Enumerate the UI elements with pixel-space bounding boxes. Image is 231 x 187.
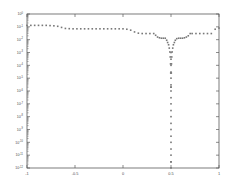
data-point bbox=[187, 35, 189, 37]
data-point bbox=[38, 25, 40, 27]
data-point bbox=[138, 32, 140, 34]
data-point bbox=[175, 39, 177, 41]
data-point-spike bbox=[170, 77, 172, 79]
data-point-spike bbox=[170, 129, 172, 131]
data-point bbox=[65, 28, 67, 30]
y-tick-label-10: 10-10 bbox=[15, 139, 23, 145]
data-point bbox=[171, 56, 173, 58]
scatter-plot: 10010-110-210-310-410-510-610-710-810-91… bbox=[0, 0, 231, 187]
data-point bbox=[107, 28, 109, 30]
y-tick-label-7: 10-7 bbox=[17, 101, 24, 107]
data-point-spike bbox=[170, 58, 172, 60]
data-point-spike bbox=[170, 97, 172, 99]
data-point bbox=[161, 37, 163, 39]
data-point bbox=[88, 28, 90, 30]
data-point-spike bbox=[170, 142, 172, 144]
y-axis-ticks bbox=[27, 14, 219, 168]
figure-container: 10010-110-210-310-410-510-610-710-810-91… bbox=[0, 0, 231, 187]
data-point-spike bbox=[170, 116, 172, 118]
x-tick-label-4: 1 bbox=[218, 171, 220, 176]
data-point-spike bbox=[170, 123, 172, 125]
y-tick-label-1: 10-1 bbox=[17, 24, 24, 30]
data-point bbox=[72, 28, 74, 30]
data-point bbox=[91, 28, 93, 30]
data-point bbox=[49, 25, 51, 27]
y-tick-label-6: 10-6 bbox=[17, 88, 24, 94]
data-point bbox=[180, 37, 182, 39]
data-point-spike bbox=[170, 167, 172, 169]
data-point-spike bbox=[170, 71, 172, 73]
data-point bbox=[145, 33, 147, 35]
data-point bbox=[214, 28, 216, 30]
data-point bbox=[76, 28, 78, 30]
data-point bbox=[84, 28, 86, 30]
y-tick-label-9: 10-9 bbox=[17, 126, 24, 132]
data-point bbox=[186, 36, 188, 38]
data-point bbox=[157, 36, 159, 38]
data-point bbox=[61, 27, 63, 29]
data-point bbox=[34, 25, 36, 27]
data-point-spike bbox=[170, 154, 172, 156]
data-point-spike bbox=[170, 148, 172, 150]
data-point bbox=[95, 28, 97, 30]
data-point bbox=[182, 37, 184, 39]
data-point bbox=[149, 33, 151, 35]
y-tick-label-0: 100 bbox=[18, 11, 24, 17]
data-point-series bbox=[26, 25, 220, 169]
x-axis-tick-labels: -1-0.500.51 bbox=[25, 171, 220, 176]
data-point bbox=[42, 25, 44, 27]
data-point bbox=[45, 25, 47, 27]
data-point bbox=[30, 25, 32, 27]
data-point-spike bbox=[170, 84, 172, 86]
data-point bbox=[130, 29, 132, 31]
data-point bbox=[159, 37, 161, 39]
plot-frame bbox=[27, 14, 219, 168]
y-tick-label-12: 10-12 bbox=[15, 165, 23, 171]
data-point bbox=[174, 42, 176, 44]
data-point-spike bbox=[170, 52, 172, 54]
data-point bbox=[203, 33, 205, 35]
y-tick-label-5: 10-5 bbox=[17, 75, 24, 81]
data-point-spike bbox=[170, 90, 172, 92]
data-point bbox=[168, 44, 170, 46]
data-point bbox=[178, 37, 180, 39]
data-point bbox=[126, 28, 128, 30]
y-tick-label-11: 10-11 bbox=[15, 152, 23, 158]
data-point bbox=[118, 28, 120, 30]
data-point bbox=[171, 63, 173, 65]
data-point bbox=[153, 33, 155, 35]
data-point bbox=[80, 28, 82, 30]
data-point bbox=[155, 34, 157, 36]
data-point bbox=[26, 25, 28, 27]
data-point bbox=[195, 33, 197, 35]
data-point bbox=[57, 26, 59, 28]
data-point bbox=[168, 47, 170, 49]
data-point bbox=[115, 28, 117, 30]
data-point bbox=[68, 28, 70, 30]
data-point bbox=[218, 27, 220, 29]
data-point bbox=[170, 86, 172, 88]
data-point bbox=[211, 33, 213, 35]
y-tick-label-2: 10-2 bbox=[17, 36, 24, 42]
data-point-spike bbox=[170, 135, 172, 137]
data-point-spike bbox=[170, 103, 172, 105]
x-tick-label-1: -0.5 bbox=[72, 171, 79, 176]
data-point-spike bbox=[170, 161, 172, 163]
data-point bbox=[173, 44, 175, 46]
axes-frame bbox=[27, 14, 219, 168]
data-point bbox=[199, 33, 201, 35]
data-point bbox=[176, 38, 178, 40]
data-point bbox=[134, 31, 136, 33]
y-tick-label-3: 10-3 bbox=[17, 49, 24, 55]
data-point-spike bbox=[170, 110, 172, 112]
data-point bbox=[167, 42, 169, 44]
data-point bbox=[169, 56, 171, 58]
data-point bbox=[184, 37, 186, 39]
data-point bbox=[141, 33, 143, 35]
data-point bbox=[111, 28, 113, 30]
x-tick-label-2: 0 bbox=[122, 171, 125, 176]
y-axis-tick-labels: 10010-110-210-310-410-510-610-710-810-91… bbox=[15, 11, 23, 171]
data-point-spike bbox=[170, 65, 172, 67]
data-point bbox=[163, 37, 165, 39]
data-point bbox=[166, 39, 168, 41]
